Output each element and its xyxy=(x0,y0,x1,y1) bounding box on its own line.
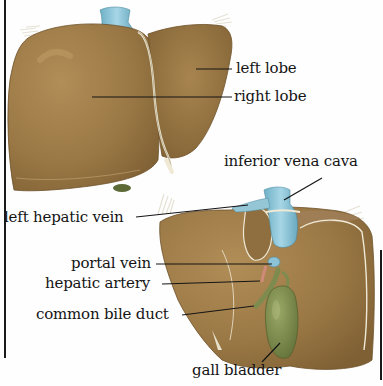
label-right-lobe: right lobe xyxy=(234,89,306,104)
label-left-lobe: left lobe xyxy=(236,61,297,76)
label-portal-vein: portal vein xyxy=(71,256,151,271)
gall-bladder-shape xyxy=(265,286,298,358)
posterior-liver-view xyxy=(158,187,374,369)
portal-vein-shape xyxy=(268,257,280,267)
caudate-lobe xyxy=(243,206,272,260)
label-common-bile-duct: common bile duct xyxy=(36,307,169,322)
label-inferior-vena-cava: inferior vena cava xyxy=(224,154,358,169)
anterior-liver-view xyxy=(8,7,232,192)
liver-anatomy-diagram: left lobe right lobe inferior vena cava … xyxy=(0,0,383,386)
liver-illustration xyxy=(0,0,383,386)
label-left-hepatic-vein: left hepatic vein xyxy=(4,210,124,225)
leader-inferior-vena-cava xyxy=(284,178,322,200)
label-hepatic-artery: hepatic artery xyxy=(45,276,150,291)
right-lobe-shape xyxy=(8,24,159,191)
label-gall-bladder: gall bladder xyxy=(192,363,281,378)
